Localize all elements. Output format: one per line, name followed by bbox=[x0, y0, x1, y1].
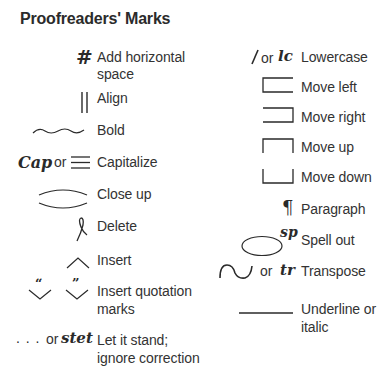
underline-rule-icon bbox=[238, 311, 294, 315]
stet-script-icon: stet bbox=[61, 329, 93, 347]
or-text: or bbox=[261, 50, 273, 66]
mark-label: Spell out bbox=[301, 231, 355, 249]
lc-script-icon: lc bbox=[278, 47, 293, 65]
delete-loop-icon bbox=[75, 215, 89, 243]
spell-out-ellipse-icon bbox=[240, 235, 284, 257]
close-quote-mark: ” bbox=[72, 276, 79, 291]
mark-label: Transpose bbox=[301, 262, 366, 280]
stet-dots-icon: . . . bbox=[16, 330, 40, 346]
mark-label: Underline or bbox=[301, 300, 376, 318]
mark-label: Insert bbox=[97, 251, 131, 269]
triple-underline-icon bbox=[71, 156, 91, 170]
move-right-bracket-icon bbox=[262, 107, 294, 123]
sp-script-icon: sp bbox=[280, 224, 298, 240]
open-quote-mark: “ bbox=[35, 276, 42, 291]
mark-label: Move up bbox=[301, 138, 354, 156]
pound-sign-icon: # bbox=[76, 45, 93, 69]
mark-label: Capitalize bbox=[97, 153, 157, 171]
or-text: or bbox=[260, 263, 272, 279]
mark-label: Lowercase bbox=[301, 48, 368, 66]
tr-script-icon: tr bbox=[280, 261, 295, 279]
move-left-bracket-icon bbox=[262, 77, 294, 93]
move-down-bracket-icon bbox=[262, 168, 294, 184]
or-text: or bbox=[54, 154, 66, 170]
mark-label: Move left bbox=[301, 78, 357, 96]
mark-label: Paragraph bbox=[301, 200, 365, 218]
mark-label-line2: space bbox=[97, 65, 134, 83]
mark-label-line2: ignore correction bbox=[97, 349, 200, 367]
mark-label: Delete bbox=[97, 217, 137, 235]
page-title: Proofreaders' Marks bbox=[20, 10, 170, 28]
mark-label: Add horizontal bbox=[97, 48, 185, 66]
mark-label: Align bbox=[97, 89, 128, 107]
move-up-bracket-icon bbox=[262, 138, 294, 154]
slash-icon bbox=[251, 49, 259, 65]
paragraph-sign-icon: ¶ bbox=[282, 197, 293, 218]
mark-label: Let it stand; bbox=[97, 331, 168, 349]
mark-label-line2: marks bbox=[97, 300, 135, 318]
mark-label: Insert quotation bbox=[97, 282, 192, 300]
wavy-underline-icon bbox=[32, 126, 86, 136]
mark-label: Move right bbox=[301, 108, 365, 126]
cap-script-icon: Cap bbox=[18, 153, 52, 172]
mark-label-line2: italic bbox=[301, 318, 328, 336]
or-text: or bbox=[46, 331, 58, 347]
double-vertical-bar-icon bbox=[80, 92, 90, 114]
transpose-curve-icon bbox=[218, 262, 254, 280]
mark-label: Bold bbox=[97, 121, 125, 139]
mark-label: Move down bbox=[301, 168, 372, 186]
close-up-arcs-icon bbox=[38, 188, 88, 210]
mark-label: Close up bbox=[97, 185, 151, 203]
caret-icon bbox=[66, 256, 90, 269]
